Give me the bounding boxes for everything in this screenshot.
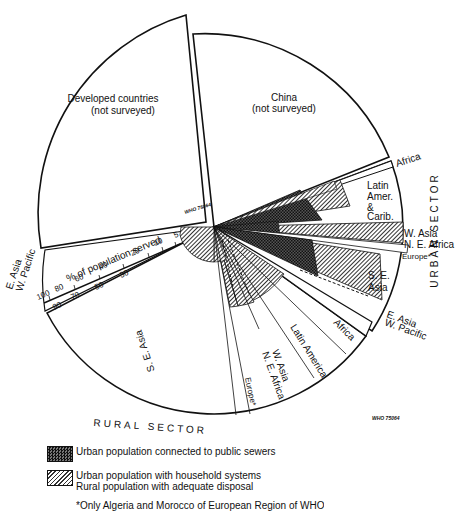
slice-developed-countries: Developed countries (not surveyed) WHO 7… [38,15,212,248]
legend: Urban population connected to public sew… [47,446,447,500]
legend-label-sewers: Urban population connected to public sew… [76,446,276,457]
urban-latin-label-4: Carib. [367,211,394,222]
urban-latin-label-2: Amer. [367,191,393,202]
urban-africa-label: Africa [394,150,422,168]
developed-label: Developed countries [67,93,158,104]
developed-sublabel: (not surveyed) [91,105,155,116]
urban-seasia-label-2: Asia [368,282,388,293]
footnote: *Only Algeria and Morocco of European Re… [76,500,324,513]
hatch-pattern-swatch [47,470,73,486]
urban-sector-label: URBAN SECTOR [429,172,440,287]
urban-europe-label: Europe* [402,252,431,261]
dark-pattern-swatch [47,446,73,462]
legend-item-household: Urban population with household systems … [47,470,447,492]
legend-label-group: Urban population with household systems … [76,470,261,492]
legend-label-rural: Rural population with adequate disposal [76,481,261,492]
urban-seasia-label-1: S. E. [368,270,390,281]
legend-item-sewers: Urban population connected to public sew… [47,446,447,462]
rural-sector-label: RURAL SECTOR [93,417,207,436]
china-label: China [271,92,298,103]
who-code-2: WHO 75064 [372,415,400,421]
sanitation-pie-diagram: Developed countries (not surveyed) WHO 7… [0,0,460,440]
legend-label-household: Urban population with household systems [76,470,261,481]
urban-latin-label-1: Latin [367,180,389,191]
china-sublabel: (not surveyed) [252,103,316,114]
